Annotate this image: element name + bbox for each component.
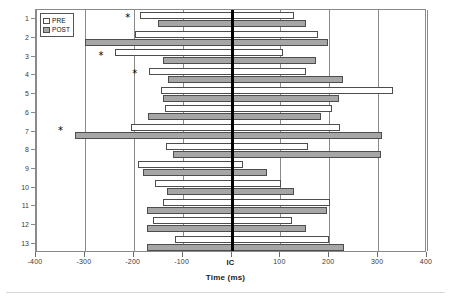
y-tick-mark-5 bbox=[31, 93, 35, 94]
bar-post-7 bbox=[75, 132, 382, 139]
bar-pre-5 bbox=[161, 87, 393, 94]
bar-pre-3 bbox=[115, 49, 283, 56]
significance-asterisk-1: * bbox=[125, 13, 130, 23]
y-tick-mark-11 bbox=[31, 205, 35, 206]
y-tick-label-7: 7 bbox=[7, 127, 29, 134]
y-tick-mark-4 bbox=[31, 74, 35, 75]
bar-chart: 12345678910111213 -400-300-200-100IC1002… bbox=[0, 0, 451, 298]
plot-area bbox=[35, 9, 426, 252]
x-tick-label-300: 300 bbox=[371, 258, 383, 265]
y-tick-label-2: 2 bbox=[7, 34, 29, 41]
bar-pre-7 bbox=[131, 124, 340, 131]
bar-pre-13 bbox=[175, 236, 329, 243]
bar-post-8 bbox=[173, 151, 381, 158]
y-tick-label-13: 13 bbox=[7, 239, 29, 246]
significance-asterisk-7: * bbox=[58, 126, 63, 136]
y-tick-label-6: 6 bbox=[7, 108, 29, 115]
gridline--400 bbox=[36, 10, 37, 251]
bar-post-13 bbox=[147, 244, 344, 251]
x-tick-mark--200 bbox=[133, 252, 134, 257]
y-tick-mark-7 bbox=[31, 131, 35, 132]
footer-divider bbox=[6, 292, 445, 293]
bar-pre-1 bbox=[140, 12, 293, 19]
legend-swatch-post-icon bbox=[43, 27, 50, 33]
bar-post-11 bbox=[147, 207, 327, 214]
y-tick-mark-6 bbox=[31, 112, 35, 113]
gridline-300 bbox=[378, 10, 379, 251]
y-tick-mark-13 bbox=[31, 243, 35, 244]
legend-item-post: POST bbox=[43, 25, 70, 34]
y-tick-mark-2 bbox=[31, 37, 35, 38]
x-tick-label--100: -100 bbox=[174, 258, 189, 265]
y-tick-mark-1 bbox=[31, 18, 35, 19]
bar-pre-2 bbox=[135, 31, 317, 38]
bar-post-9 bbox=[143, 169, 267, 176]
x-axis-title: Time (ms) bbox=[0, 273, 451, 282]
y-tick-label-10: 10 bbox=[7, 183, 29, 190]
y-tick-mark-9 bbox=[31, 168, 35, 169]
bar-post-2 bbox=[85, 39, 328, 46]
significance-asterisk-3: * bbox=[98, 51, 103, 61]
x-tick-label--300: -300 bbox=[76, 258, 91, 265]
bar-pre-10 bbox=[155, 180, 281, 187]
y-tick-label-12: 12 bbox=[7, 220, 29, 227]
y-tick-mark-10 bbox=[31, 187, 35, 188]
legend-label-pre: PRE bbox=[52, 17, 66, 24]
x-tick-mark--100 bbox=[182, 252, 183, 257]
bar-pre-9 bbox=[138, 161, 243, 168]
significance-asterisk-4: * bbox=[132, 69, 137, 79]
bar-pre-11 bbox=[163, 199, 330, 206]
bar-post-5 bbox=[163, 95, 338, 102]
y-tick-mark-12 bbox=[31, 224, 35, 225]
x-tick-label--200: -200 bbox=[125, 258, 140, 265]
x-tick-label-400: 400 bbox=[420, 258, 432, 265]
x-tick-label--400: -400 bbox=[28, 258, 43, 265]
y-tick-mark-8 bbox=[31, 149, 35, 150]
bar-pre-6 bbox=[165, 105, 332, 112]
x-tick-mark--300 bbox=[84, 252, 85, 257]
y-tick-label-9: 9 bbox=[7, 164, 29, 171]
x-tick-mark-400 bbox=[426, 252, 427, 257]
y-tick-mark-3 bbox=[31, 56, 35, 57]
bar-pre-4 bbox=[149, 68, 306, 75]
x-tick-label-100: 100 bbox=[273, 258, 285, 265]
gridline--300 bbox=[85, 10, 86, 251]
y-tick-label-4: 4 bbox=[7, 71, 29, 78]
y-tick-label-11: 11 bbox=[7, 202, 29, 209]
bar-pre-8 bbox=[166, 143, 307, 150]
x-tick-mark-300 bbox=[377, 252, 378, 257]
y-tick-label-5: 5 bbox=[7, 90, 29, 97]
bar-post-6 bbox=[148, 113, 321, 120]
bar-post-4 bbox=[168, 76, 343, 83]
x-tick-mark-0 bbox=[231, 252, 232, 257]
x-tick-label-ic: IC bbox=[227, 258, 235, 267]
bar-post-12 bbox=[147, 225, 306, 232]
legend-item-pre: PRE bbox=[43, 16, 70, 25]
y-tick-label-8: 8 bbox=[7, 146, 29, 153]
x-tick-mark-200 bbox=[328, 252, 329, 257]
y-tick-label-3: 3 bbox=[7, 52, 29, 59]
x-tick-mark--400 bbox=[35, 252, 36, 257]
x-tick-mark-100 bbox=[279, 252, 280, 257]
zero-reference-line bbox=[231, 10, 234, 251]
y-tick-label-1: 1 bbox=[7, 15, 29, 22]
bar-pre-12 bbox=[153, 217, 291, 224]
bar-post-3 bbox=[163, 57, 316, 64]
legend-label-post: POST bbox=[52, 26, 70, 33]
legend-swatch-pre-icon bbox=[43, 18, 50, 24]
x-tick-label-200: 200 bbox=[322, 258, 334, 265]
legend: PRE POST bbox=[40, 13, 74, 37]
gridline-400 bbox=[427, 10, 428, 251]
